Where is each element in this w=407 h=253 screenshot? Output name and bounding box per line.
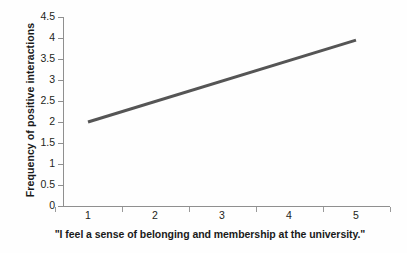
x-axis-title: "I feel a sense of belonging and members… [28,228,392,240]
trend-line-series [88,40,356,122]
series-layer [0,0,407,253]
chart-figure: Frequency of positive interactions 00.51… [0,0,407,253]
